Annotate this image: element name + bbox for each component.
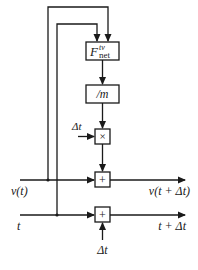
t-input-label: t bbox=[17, 219, 21, 233]
fnet-sub: net bbox=[99, 50, 110, 60]
addv-label: + bbox=[99, 173, 106, 187]
v-output-label: v(t + Δt) bbox=[149, 184, 190, 198]
mult-label: × bbox=[99, 130, 105, 142]
divm-label: /m bbox=[96, 87, 109, 101]
block-diagram: F tv net /m × + + Δt v(t) t v(t + Δt) t … bbox=[0, 0, 198, 270]
v-junction-dot bbox=[46, 178, 49, 181]
t-junction-dot bbox=[55, 213, 58, 216]
dt-add-label: Δt bbox=[96, 243, 108, 257]
fnet-label: F bbox=[89, 44, 99, 59]
dt-mult-label: Δt bbox=[71, 120, 82, 132]
addt-label: + bbox=[99, 208, 106, 222]
v-input-label: v(t) bbox=[11, 184, 28, 198]
t-output-label: t + Δt bbox=[158, 219, 186, 233]
